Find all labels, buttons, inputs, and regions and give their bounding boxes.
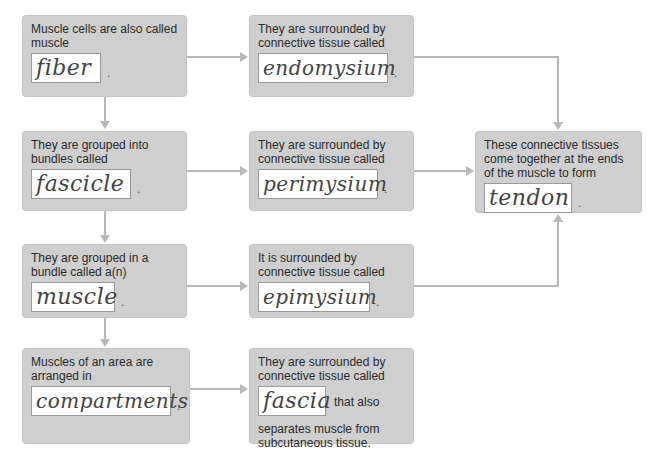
fiber-box: Muscle cells are also called muscle fibe… [22,15,187,97]
endomysium-answer-field[interactable]: endomysium [258,53,388,83]
compartments-box: Muscles of an area are arranged in compa… [22,348,190,444]
fascia-answer-field[interactable]: fascia [258,386,326,416]
connector-line [557,221,559,287]
arrow-right-icon [240,166,248,176]
period: . [394,66,397,80]
connector-line [187,56,241,58]
fiber-prompt: Muscle cells are also called muscle [31,22,178,50]
perimysium-box: They are surrounded by connective tissue… [249,131,414,211]
fascia-suffix: that also [334,395,379,409]
muscle-answer-field[interactable]: muscle [31,282,115,312]
endomysium-prompt: They are surrounded by connective tissue… [258,22,405,50]
epimysium-prompt: It is surrounded by connective tissue ca… [258,251,405,279]
arrow-down-icon [553,122,563,130]
fascia-box: They are surrounded by connective tissue… [249,348,414,444]
fascicle-answer-field[interactable]: fascicle [31,169,131,199]
connector-line [190,388,241,390]
period: . [137,182,140,196]
muscle-box: They are grouped in a bundle called a(n)… [22,244,187,318]
arrow-down-icon [100,235,110,243]
connector-line [104,211,106,236]
perimysium-answer-field[interactable]: perimysium [258,169,378,199]
arrow-right-icon [466,166,474,176]
epimysium-box: It is surrounded by connective tissue ca… [249,244,414,318]
fascia-after-text: separates muscle from subcutaneous tissu… [258,422,405,450]
connector-line [414,170,467,172]
fascia-prompt: They are surrounded by connective tissue… [258,355,405,383]
connector-line [187,170,241,172]
arrow-right-icon [240,384,248,394]
muscle-prompt: They are grouped in a bundle called a(n) [31,251,178,279]
arrow-up-icon [553,214,563,222]
fascicle-box: They are grouped into bundles called fas… [22,131,187,211]
tendon-prompt: These connective tissues come together a… [484,138,633,180]
fiber-answer-field[interactable]: fiber [31,53,101,83]
connector-line [414,56,559,58]
period: . [121,295,124,309]
arrow-right-icon [240,52,248,62]
connector-line [187,285,241,287]
compartments-prompt: Muscles of an area are arranged in [31,355,181,383]
endomysium-box: They are surrounded by connective tissue… [249,15,414,97]
arrow-down-icon [100,339,110,347]
period: . [177,399,180,413]
arrow-down-icon [100,121,110,129]
period: . [578,196,581,210]
period: . [107,66,110,80]
connector-line [104,97,106,123]
perimysium-prompt: They are surrounded by connective tissue… [258,138,405,166]
epimysium-answer-field[interactable]: epimysium [258,282,370,312]
fascicle-prompt: They are grouped into bundles called [31,138,178,166]
arrow-right-icon [240,281,248,291]
tendon-box: These connective tissues come together a… [475,131,642,213]
connector-line [104,318,106,340]
tendon-answer-field[interactable]: tendon [484,183,572,213]
connector-line [414,285,559,287]
period: . [384,182,387,196]
compartments-answer-field[interactable]: compartments [31,386,171,416]
period: . [376,295,379,309]
connector-line [557,56,559,123]
